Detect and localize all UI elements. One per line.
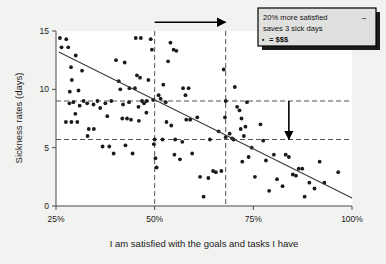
data-point xyxy=(208,138,212,142)
data-point xyxy=(235,105,239,109)
data-point xyxy=(98,106,102,110)
data-point xyxy=(165,120,169,124)
data-point xyxy=(214,170,218,174)
data-point xyxy=(297,167,301,171)
data-point xyxy=(307,181,311,185)
data-point xyxy=(125,117,129,121)
data-point xyxy=(187,86,191,90)
data-point xyxy=(157,93,161,97)
data-point xyxy=(190,152,194,156)
data-point xyxy=(118,87,122,91)
data-point xyxy=(69,65,73,69)
data-point xyxy=(120,117,124,121)
data-point xyxy=(228,132,232,136)
data-point xyxy=(318,160,322,164)
data-point xyxy=(294,174,298,178)
y-tick-label: 15 xyxy=(40,26,50,36)
data-point xyxy=(82,99,86,103)
data-point xyxy=(206,176,210,180)
data-point xyxy=(60,45,64,49)
data-point xyxy=(152,142,156,146)
data-point xyxy=(259,122,263,126)
data-point xyxy=(124,143,128,147)
data-point xyxy=(313,187,317,191)
data-point xyxy=(101,145,105,149)
data-point xyxy=(64,37,68,41)
data-point xyxy=(92,127,96,131)
y-tick-label: 10 xyxy=(40,84,50,94)
data-point xyxy=(78,104,82,108)
data-point xyxy=(134,36,138,40)
data-point xyxy=(222,68,226,72)
data-point xyxy=(144,111,148,115)
data-point xyxy=(105,114,109,118)
data-point xyxy=(247,155,251,159)
data-point xyxy=(242,134,246,138)
data-point xyxy=(74,54,78,58)
data-point xyxy=(275,177,279,181)
y-tick-label: 0 xyxy=(44,201,49,211)
x-tick-label: 50% xyxy=(146,214,163,224)
data-point xyxy=(166,59,170,63)
data-point xyxy=(238,108,242,112)
data-point xyxy=(87,127,91,131)
data-point xyxy=(80,69,84,73)
scatter-chart: 05101525%50%75%100% Sickness rates (days… xyxy=(0,0,386,264)
plot-area-background xyxy=(56,31,352,206)
data-point xyxy=(135,73,139,77)
data-point xyxy=(253,175,257,179)
data-point xyxy=(239,127,243,131)
data-point xyxy=(184,118,188,122)
data-point xyxy=(219,169,223,173)
x-axis-title: I am satisfied with the goals and tasks … xyxy=(110,238,299,249)
x-tick-label: 100% xyxy=(341,214,363,224)
data-point xyxy=(154,156,158,160)
data-point xyxy=(149,37,153,41)
data-point xyxy=(198,175,202,179)
data-point xyxy=(75,120,79,124)
data-point xyxy=(184,93,188,97)
data-point xyxy=(73,112,77,116)
data-point xyxy=(92,103,96,107)
data-point xyxy=(245,100,249,104)
data-point xyxy=(114,58,118,62)
data-point xyxy=(264,159,268,163)
data-point xyxy=(58,36,62,40)
data-point xyxy=(150,48,154,52)
data-point xyxy=(145,99,149,103)
data-point xyxy=(173,138,177,142)
data-point xyxy=(178,157,182,161)
data-point xyxy=(195,115,199,119)
data-point xyxy=(284,153,288,157)
data-point xyxy=(174,49,178,53)
data-point xyxy=(181,86,185,90)
data-point xyxy=(96,99,100,103)
y-tick-label: 5 xyxy=(44,143,49,153)
data-point xyxy=(71,100,75,104)
data-point xyxy=(70,78,74,82)
data-point xyxy=(131,152,135,156)
data-point xyxy=(109,99,113,103)
data-point xyxy=(272,153,276,157)
data-point xyxy=(261,139,265,143)
data-point xyxy=(64,120,68,124)
data-point xyxy=(240,117,244,121)
data-point xyxy=(68,101,72,105)
data-point xyxy=(161,83,165,87)
data-point xyxy=(146,78,150,82)
data-point xyxy=(121,103,125,107)
callout-line-3: = $$$ xyxy=(269,35,289,44)
data-point xyxy=(244,125,248,129)
data-point xyxy=(138,76,142,80)
data-point xyxy=(180,140,184,144)
data-point xyxy=(169,41,173,45)
data-point xyxy=(123,61,127,65)
data-point xyxy=(66,45,70,49)
data-point xyxy=(155,166,159,170)
data-point xyxy=(86,134,90,138)
callout-line-1: 20% more satisfied xyxy=(263,13,328,22)
data-point xyxy=(300,167,304,171)
callout-line-2: saves 3 sick days xyxy=(263,24,323,33)
data-point xyxy=(336,170,340,174)
x-tick-label: 25% xyxy=(47,214,64,224)
